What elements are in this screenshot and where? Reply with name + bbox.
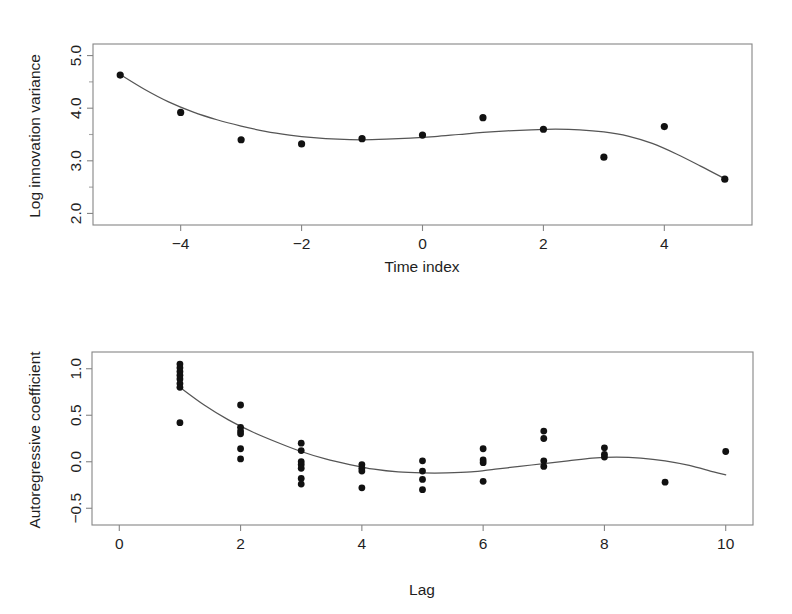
plot-frame-bottom (92, 352, 753, 525)
data-point (662, 479, 669, 486)
data-point (601, 444, 608, 451)
fit-curve-top (120, 75, 725, 179)
x-tick-label: 0 (418, 235, 427, 252)
x-tick-label: 10 (717, 535, 735, 552)
data-point (177, 419, 184, 426)
y-axis-label-bottom: Autoregressive coefficient (26, 351, 43, 529)
data-point (358, 484, 365, 491)
data-point (177, 384, 184, 391)
y-tick-label: −0.5 (68, 493, 85, 524)
data-point (722, 448, 729, 455)
data-point (298, 447, 305, 454)
data-point (479, 114, 486, 121)
data-point (358, 468, 365, 475)
x-tick-label: 4 (358, 535, 367, 552)
data-point (177, 109, 184, 116)
x-tick-labels-bottom: 0246810 (115, 535, 735, 552)
tick-marks-bottom (86, 369, 726, 531)
data-point (540, 428, 547, 435)
bottom-chart-svg: Autoregressive coefficient −0.50.00.51.0… (0, 300, 792, 614)
y-tick-label: 5.0 (68, 44, 85, 66)
data-point (600, 154, 607, 161)
data-point (419, 131, 426, 138)
tick-marks-top (87, 56, 664, 231)
y-tick-labels-top: 2.03.04.05.0 (68, 44, 85, 224)
y-tick-label: 2.0 (68, 202, 85, 224)
data-point (237, 402, 244, 409)
data-point (601, 454, 608, 461)
data-point (480, 478, 487, 485)
top-chart-svg: Log innovation variance 2.03.04.05.0 −4−… (0, 0, 792, 290)
y-axis-label-top: Log innovation variance (26, 54, 43, 218)
bottom-axis-y-title: Autoregressive coefficient (26, 351, 43, 529)
data-point (540, 463, 547, 470)
y-tick-label: 3.0 (68, 150, 85, 172)
data-point (237, 456, 244, 463)
x-tick-label: 0 (115, 535, 124, 552)
data-points-top (117, 71, 729, 182)
data-point (419, 476, 426, 483)
x-tick-label: 6 (479, 535, 488, 552)
data-point (419, 457, 426, 464)
panel-log-innovation-variance: Log innovation variance 2.03.04.05.0 −4−… (0, 0, 792, 290)
data-point (721, 176, 728, 183)
data-point (238, 136, 245, 143)
data-point (237, 430, 244, 437)
data-point (419, 486, 426, 493)
x-axis-label-bottom: Lag (409, 581, 435, 598)
data-point (298, 465, 305, 472)
top-axis-y-title: Log innovation variance (26, 54, 43, 218)
data-point (419, 468, 426, 475)
y-tick-label: 0.0 (68, 451, 85, 473)
data-point (480, 459, 487, 466)
x-tick-label: 2 (236, 535, 245, 552)
panel-autoregressive-coefficient: Autoregressive coefficient −0.50.00.51.0… (0, 300, 792, 614)
figure-canvas: Log innovation variance 2.03.04.05.0 −4−… (0, 0, 792, 614)
data-point (117, 71, 124, 78)
x-tick-label: −4 (172, 235, 190, 252)
x-tick-label: 8 (600, 535, 609, 552)
data-point (480, 445, 487, 452)
x-tick-label: 4 (660, 235, 669, 252)
y-tick-label: 4.0 (68, 97, 85, 119)
x-tick-label: −2 (293, 235, 311, 252)
data-point (358, 135, 365, 142)
y-tick-labels-bottom: −0.50.00.51.0 (68, 358, 85, 524)
x-axis-label-top: Time index (384, 258, 459, 275)
data-point (661, 123, 668, 130)
x-tick-label: 2 (539, 235, 548, 252)
data-point (298, 440, 305, 447)
data-point (540, 435, 547, 442)
y-tick-label: 0.5 (68, 404, 85, 426)
data-point (540, 126, 547, 133)
data-point (298, 140, 305, 147)
data-point (298, 481, 305, 488)
data-point (237, 445, 244, 452)
fit-curve-bottom (180, 387, 726, 474)
y-tick-label: 1.0 (68, 358, 85, 380)
x-tick-labels-top: −4−2024 (172, 235, 669, 252)
